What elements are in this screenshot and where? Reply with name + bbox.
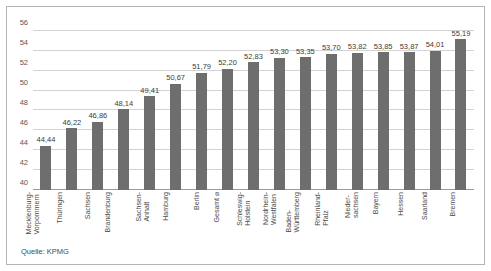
bar-slot: 53,85	[370, 21, 396, 190]
bar[interactable]: 51,79	[196, 73, 207, 190]
bar[interactable]: 44,44	[40, 146, 51, 190]
y-axis-tick-label: 52	[20, 59, 28, 67]
category-label: Hessen	[397, 192, 405, 216]
category-slot: Saarland	[422, 192, 448, 250]
bar-slot: 53,35	[292, 21, 318, 190]
bar-value-label: 46,22	[63, 119, 82, 127]
category-slot: Hamburg	[163, 192, 189, 250]
y-axis-tick-label: 42	[20, 159, 28, 167]
category-label: Rheinland-Pfalz	[314, 192, 330, 226]
plot-area: 404244464850525456 44,4446,2246,8648,144…	[33, 21, 474, 190]
bar[interactable]: 53,85	[378, 52, 389, 190]
chart-figure: 404244464850525456 44,4446,2246,8648,144…	[0, 0, 491, 271]
bar-value-label: 53,82	[348, 43, 367, 51]
bar[interactable]: 52,20	[222, 69, 233, 190]
category-label: Schleswig-Holstein	[237, 192, 253, 226]
bar[interactable]: 55,19	[455, 39, 466, 190]
y-axis-tick-label: 54	[20, 40, 28, 48]
bar-value-label: 49,41	[140, 87, 159, 95]
bar-slot: 49,41	[137, 21, 163, 190]
bar-value-label: 44,44	[37, 136, 56, 144]
bar-slot: 55,19	[448, 21, 474, 190]
y-axis-tick-label: 56	[20, 20, 28, 28]
bar-value-label: 46,86	[88, 112, 107, 120]
bar-slot: 46,86	[85, 21, 111, 190]
category-slot: Bremen	[448, 192, 474, 250]
bar-value-label: 52,20	[218, 59, 237, 67]
bar-slot: 48,14	[111, 21, 137, 190]
category-label: Berlin	[193, 192, 201, 210]
bar-value-label: 53,87	[400, 43, 419, 51]
category-label: Bayern	[372, 192, 380, 214]
bar-value-label: 51,79	[192, 63, 211, 71]
category-slot: Hessen	[396, 192, 422, 250]
bar[interactable]: 49,41	[144, 96, 155, 190]
bar-value-label: 54,01	[426, 41, 445, 49]
category-label: Bremen	[449, 192, 457, 217]
category-slot: Berlin	[189, 192, 215, 250]
bar[interactable]: 54,01	[430, 51, 441, 190]
category-label: Thüringen	[56, 192, 64, 224]
category-label: Mecklenburg-Vorpommern	[25, 192, 41, 234]
bar[interactable]: 53,70	[326, 54, 337, 190]
bar[interactable]: 46,22	[66, 128, 77, 190]
bar-slot: 44,44	[33, 21, 59, 190]
category-slot: Sachsen-Anhalt	[137, 192, 163, 250]
bar-value-label: 53,30	[270, 48, 289, 56]
y-axis-tick-label: 44	[20, 139, 28, 147]
bar-slot: 53,82	[344, 21, 370, 190]
chart-frame: 404244464850525456 44,4446,2246,8648,144…	[6, 6, 485, 265]
y-axis-tick-label: 46	[20, 119, 28, 127]
bar[interactable]: 53,30	[274, 58, 285, 190]
category-slot: Nieder-sachsen	[344, 192, 370, 250]
bar-slot: 54,01	[422, 21, 448, 190]
bar-series: 44,4446,2246,8648,1449,4150,6751,7952,20…	[33, 21, 474, 190]
bar-slot: 53,87	[396, 21, 422, 190]
bar-slot: 50,67	[163, 21, 189, 190]
y-axis-tick-label: 50	[20, 79, 28, 87]
bar-value-label: 53,70	[322, 44, 341, 52]
y-axis-tick-label: 48	[20, 99, 28, 107]
category-label: Brandenburg	[104, 192, 112, 232]
category-axis: Mecklenburg-VorpommernThüringenSachsenBr…	[33, 192, 474, 250]
category-label: Hamburg	[161, 192, 169, 221]
bar[interactable]: 53,87	[404, 52, 415, 190]
category-label: Sachsen-Anhalt	[135, 192, 151, 222]
bar-slot: 46,22	[59, 21, 85, 190]
category-label: Baden-Württemberg	[285, 192, 301, 232]
bar-value-label: 55,19	[452, 30, 471, 38]
category-label: Gesamt ⌀	[212, 192, 220, 222]
category-label: Sachsen	[84, 192, 92, 219]
category-label: Nieder-sachsen	[344, 192, 360, 218]
bar-slot: 53,70	[318, 21, 344, 190]
bar-slot: 52,83	[241, 21, 267, 190]
bar-slot: 52,20	[215, 21, 241, 190]
category-slot: Bayern	[370, 192, 396, 250]
bar-value-label: 53,85	[374, 43, 393, 51]
bar[interactable]: 46,86	[92, 122, 103, 190]
bar[interactable]: 53,35	[300, 57, 311, 190]
bar[interactable]: 52,83	[248, 62, 259, 190]
category-label: Nordrhein-Westfalen	[263, 192, 279, 225]
source-note: Quelle: KPMG	[21, 248, 69, 256]
category-slot: Mecklenburg-Vorpommern	[33, 192, 59, 250]
category-slot: Rheinland-Pfalz	[318, 192, 344, 250]
bar-slot: 53,30	[266, 21, 292, 190]
bar-value-label: 48,14	[114, 100, 133, 108]
category-label: Saarland	[421, 192, 429, 220]
bar[interactable]: 48,14	[118, 109, 129, 190]
bar[interactable]: 53,82	[352, 53, 363, 190]
bar-value-label: 50,67	[166, 74, 185, 82]
category-slot: Thüringen	[59, 192, 85, 250]
bar-value-label: 52,83	[244, 53, 263, 61]
category-slot: Brandenburg	[111, 192, 137, 250]
bar-slot: 51,79	[189, 21, 215, 190]
bar-value-label: 53,35	[296, 48, 315, 56]
bar[interactable]: 50,67	[170, 84, 181, 190]
y-axis-tick-label: 40	[20, 179, 28, 187]
